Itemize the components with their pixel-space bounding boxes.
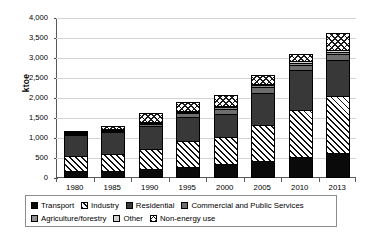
stacked-bar[interactable]	[214, 95, 238, 178]
legend-label: Other	[123, 214, 143, 223]
bar-segment[interactable]	[327, 154, 349, 177]
bar-segment[interactable]	[252, 162, 274, 177]
bar-segment[interactable]	[140, 127, 162, 149]
bar-segment[interactable]	[102, 133, 124, 155]
legend-label: Transport	[41, 201, 74, 210]
bar-segment[interactable]	[65, 172, 87, 177]
y-axis-tick-label: 3,000	[12, 54, 48, 62]
legend-row: TransportIndustryResidentialCommercial a…	[31, 199, 332, 212]
legend-swatch-icon	[31, 215, 38, 222]
bar-segment[interactable]	[290, 158, 312, 177]
bar-group[interactable]	[251, 18, 273, 178]
stacked-bar[interactable]	[176, 102, 200, 178]
bar-segment[interactable]	[252, 94, 274, 126]
bar-segment[interactable]	[215, 115, 237, 138]
stacked-bar[interactable]	[64, 131, 88, 178]
bar-segment[interactable]	[215, 165, 237, 177]
legend-item[interactable]: Industry	[81, 201, 119, 210]
legend-item[interactable]: Agriculture/forestry	[31, 214, 106, 223]
x-axis-tick-label: 1990	[135, 182, 165, 194]
legend-swatch-icon	[81, 202, 88, 209]
plot-area	[56, 18, 356, 178]
legend-label: Residential	[136, 201, 175, 210]
bar-group[interactable]	[289, 18, 311, 178]
x-axis-tick-label: 1995	[172, 182, 202, 194]
legend-label: Commercial and Public Services	[191, 201, 303, 210]
bar-segment[interactable]	[327, 97, 349, 154]
legend-swatch-icon	[31, 202, 38, 209]
legend-label: Agriculture/forestry	[41, 214, 106, 223]
bar-group[interactable]	[176, 18, 198, 178]
legend-swatch-icon	[126, 202, 133, 209]
legend-item[interactable]: Commercial and Public Services	[181, 201, 303, 210]
stacked-bar[interactable]	[326, 33, 350, 178]
bar-segment[interactable]	[177, 103, 199, 112]
x-axis-tick-labels: 19801985199019952000200520102013	[56, 182, 356, 194]
chart-legend: TransportIndustryResidentialCommercial a…	[25, 195, 337, 227]
y-axis-tick-label: 1,000	[12, 134, 48, 142]
y-axis-tick-label: 3,500	[12, 34, 48, 42]
bar-segment[interactable]	[215, 96, 237, 107]
legend-row: Agriculture/forestryOtherNon-energy use	[31, 212, 332, 225]
x-axis-tick-label: 2000	[210, 182, 240, 194]
bar-segment[interactable]	[327, 61, 349, 97]
bar-segment[interactable]	[290, 71, 312, 111]
bar-segment[interactable]	[215, 138, 237, 165]
stacked-bar[interactable]	[101, 126, 125, 178]
y-axis-tick-label: 500	[12, 154, 48, 162]
legend-item[interactable]: Other	[113, 214, 143, 223]
bar-group[interactable]	[64, 18, 86, 178]
stacked-bar[interactable]	[139, 113, 163, 178]
bar-segment[interactable]	[102, 155, 124, 172]
bar-segment[interactable]	[65, 136, 87, 157]
x-axis-tick-label: 2013	[322, 182, 352, 194]
legend-item[interactable]: Residential	[126, 201, 175, 210]
bar-segment[interactable]	[140, 150, 162, 170]
legend-label: Non-energy use	[160, 214, 215, 223]
legend-label: Industry	[91, 201, 119, 210]
bar-series-container	[56, 18, 356, 178]
y-axis-tick-label: 0	[12, 174, 48, 182]
bar-group[interactable]	[326, 18, 348, 178]
legend-swatch-icon	[181, 202, 188, 209]
bar-group[interactable]	[139, 18, 161, 178]
y-axis-tick-label: 2,500	[12, 74, 48, 82]
legend-swatch-icon	[113, 215, 120, 222]
bar-segment[interactable]	[252, 76, 274, 85]
bar-segment[interactable]	[327, 34, 349, 51]
legend-swatch-icon	[150, 215, 157, 222]
x-axis-tick-label: 2010	[285, 182, 315, 194]
bar-segment[interactable]	[102, 172, 124, 177]
y-axis-tick-label: 2,000	[12, 94, 48, 102]
legend-item[interactable]: Non-energy use	[150, 214, 215, 223]
chart-figure: ktoe 05001,0001,5002,0002,5003,0003,5004…	[0, 0, 365, 238]
bar-segment[interactable]	[140, 170, 162, 177]
bar-segment[interactable]	[252, 126, 274, 162]
stacked-bar[interactable]	[251, 75, 275, 178]
x-axis-tick-label: 1980	[60, 182, 90, 194]
bar-segment[interactable]	[177, 142, 199, 168]
y-axis-tick-label: 4,000	[12, 14, 48, 22]
bar-segment[interactable]	[290, 55, 312, 63]
y-axis-tick-label: 1,500	[12, 114, 48, 122]
legend-item[interactable]: Transport	[31, 201, 74, 210]
x-axis-tick-label: 1985	[97, 182, 127, 194]
x-axis-tick-label: 2005	[247, 182, 277, 194]
bar-segment[interactable]	[140, 114, 162, 123]
bar-group[interactable]	[214, 18, 236, 178]
bar-segment[interactable]	[290, 111, 312, 158]
stacked-bar[interactable]	[289, 54, 313, 178]
bar-segment[interactable]	[177, 168, 199, 177]
bar-segment[interactable]	[177, 118, 199, 142]
bar-segment[interactable]	[65, 157, 87, 172]
bar-group[interactable]	[101, 18, 123, 178]
y-axis-tick-labels: 05001,0001,5002,0002,5003,0003,5004,000	[16, 18, 52, 178]
